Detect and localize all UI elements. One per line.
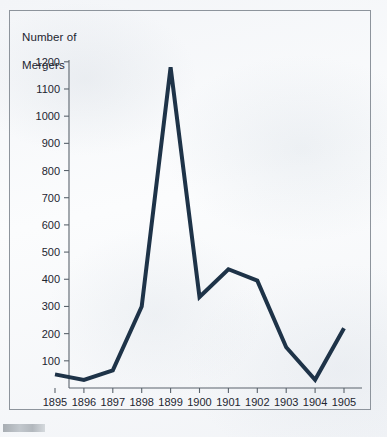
- x-tick-label: 1901: [216, 396, 240, 408]
- y-tick-label: 700: [42, 192, 60, 204]
- x-tick-label: 1900: [187, 396, 211, 408]
- y-axis: 100200300400500600700800900100011001200: [36, 56, 69, 388]
- data-series-group: [55, 67, 344, 380]
- figure-page: Number of Mergers 1002003004005006007008…: [0, 0, 387, 437]
- data-series-line: [55, 67, 344, 380]
- y-tick-label: 1200: [36, 56, 60, 68]
- y-tick-label: 400: [42, 273, 60, 285]
- line-chart-plot: 100200300400500600700800900100011001200 …: [0, 0, 387, 437]
- x-tick-label: 1904: [303, 396, 327, 408]
- y-tick-label: 900: [42, 137, 60, 149]
- x-tick-label: 1895: [43, 396, 67, 408]
- x-tick-label: 1896: [72, 396, 96, 408]
- x-tick-label: 1902: [245, 396, 269, 408]
- y-tick-label: 1000: [36, 110, 60, 122]
- x-tick-label: 1905: [332, 396, 356, 408]
- x-tick-label: 1899: [158, 396, 182, 408]
- y-tick-label: 300: [42, 300, 60, 312]
- y-tick-label: 800: [42, 165, 60, 177]
- scan-artifact: [3, 424, 45, 432]
- y-tick-label: 500: [42, 246, 60, 258]
- y-tick-label: 100: [42, 355, 60, 367]
- y-tick-label: 600: [42, 219, 60, 231]
- x-tick-label: 1903: [274, 396, 298, 408]
- x-tick-label: 1898: [129, 396, 153, 408]
- x-tick-label: 1897: [101, 396, 125, 408]
- y-tick-label: 200: [42, 328, 60, 340]
- y-tick-label: 1100: [36, 83, 60, 95]
- x-axis: 1895189618971898189919001901190219031904…: [43, 388, 362, 408]
